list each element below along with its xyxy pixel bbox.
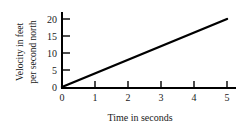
y-axis-ticks [62,19,70,70]
x-tick-label-3: 3 [159,92,164,103]
y-tick-label-20: 20 [47,14,57,25]
y-tick-label-5: 5 [52,65,57,76]
y-tick-label-15: 15 [47,31,57,42]
y-tick-label-10: 10 [47,48,57,59]
x-tick-label-0: 0 [60,92,65,103]
x-tick-label-4: 4 [192,92,197,103]
y-axis-title-line-2: per second north [28,20,38,84]
y-axis-title-line-1: Velocity in feet [15,23,25,81]
x-tick-label-5: 5 [225,92,230,103]
x-tick-label-2: 2 [126,92,131,103]
velocity-time-line-chart: 20 15 10 5 0 0 1 2 3 4 5 Time in seconds… [0,0,246,130]
y-tick-label-0: 0 [52,82,57,93]
chart-canvas: 20 15 10 5 0 0 1 2 3 4 5 Time in seconds… [0,0,246,130]
velocity-data-line [62,19,227,87]
y-axis-title: Velocity in feet per second north [15,20,38,84]
x-axis-ticks [95,81,227,88]
x-tick-label-1: 1 [93,92,98,103]
x-axis-title: Time in seconds [107,112,172,123]
